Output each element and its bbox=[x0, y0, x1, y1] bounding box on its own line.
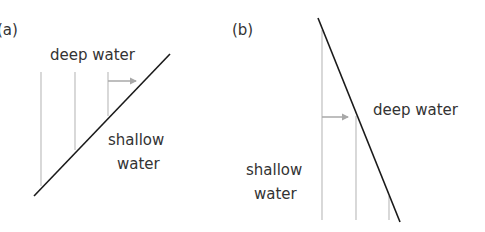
panel-b-shallow-label-line2: water bbox=[254, 185, 298, 203]
panel-b: (b) deep water shallow water bbox=[232, 18, 459, 222]
panel-a-shallow-label-line2: water bbox=[117, 155, 161, 173]
panel-b-label: (b) bbox=[232, 21, 253, 39]
panel-b-depth-boundary bbox=[318, 18, 400, 222]
panel-b-deep-water-label: deep water bbox=[373, 101, 459, 119]
panel-a-shallow-label-line1: shallow bbox=[108, 131, 164, 149]
panel-a: (a) deep water shallow water bbox=[0, 21, 170, 196]
panel-b-shallow-label-line1: shallow bbox=[246, 161, 302, 179]
panel-a-deep-water-label: deep water bbox=[50, 46, 136, 64]
diagram-canvas: (a) deep water shallow water (b) deep wa… bbox=[0, 0, 485, 232]
panel-a-depth-boundary bbox=[34, 54, 170, 196]
panel-a-label: (a) bbox=[0, 21, 18, 39]
